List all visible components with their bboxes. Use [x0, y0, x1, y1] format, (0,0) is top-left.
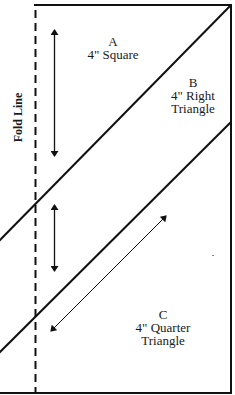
piece-a-label: A 4" Square — [68, 35, 158, 61]
piece-c-label: C 4" Quarter Triangle — [118, 308, 208, 347]
piece-b-label: B 4" Right Triangle — [158, 76, 228, 115]
piece-b-line2: Triangle — [158, 102, 228, 115]
speck — [212, 255, 214, 256]
piece-a-description: 4" Square — [68, 48, 158, 61]
fold-line-label: Fold Line — [11, 88, 26, 148]
piece-c-line2: Triangle — [118, 334, 208, 347]
